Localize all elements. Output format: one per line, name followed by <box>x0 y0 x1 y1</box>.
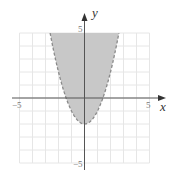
y-tick-5: 5 <box>78 24 83 34</box>
y-axis-arrow-icon <box>82 13 88 21</box>
x-tick-5: 5 <box>146 100 151 110</box>
y-tick-neg5: −5 <box>73 159 83 169</box>
x-tick-neg5: −5 <box>12 100 22 110</box>
y-axis-label: y <box>92 5 98 21</box>
x-axis-label: x <box>160 99 166 115</box>
inequality-graph <box>0 0 178 182</box>
